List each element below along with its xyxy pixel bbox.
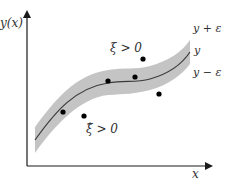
data-point — [140, 56, 145, 61]
y-axis-label: y(x) — [0, 16, 23, 30]
svr-diagram: y(x) x y + ε y y − ε ξ > 0 ξ̂ > 0 — [0, 0, 232, 185]
upper-band-label: y + ε — [192, 22, 221, 35]
xi-label: ξ > 0 — [110, 41, 142, 55]
lower-band-label: y − ε — [192, 66, 221, 79]
xi-hat-label: ξ̂ > 0 — [86, 122, 118, 136]
data-point — [60, 109, 65, 114]
data-point — [105, 78, 110, 83]
x-axis-label: x — [192, 167, 199, 181]
data-point — [132, 74, 137, 79]
epsilon-tube-band — [35, 40, 190, 153]
center-curve-label: y — [193, 44, 201, 57]
data-point — [156, 91, 161, 96]
data-point — [81, 113, 86, 118]
